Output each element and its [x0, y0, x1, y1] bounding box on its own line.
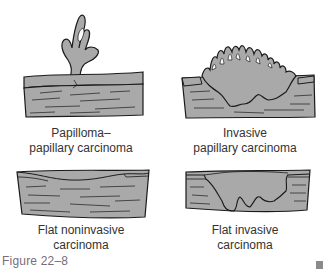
- label-line: Flat invasive: [165, 223, 325, 238]
- label-line: Invasive: [165, 126, 325, 141]
- panel-label-flat-noninvasive: Flat noninvasive carcinoma: [1, 223, 161, 253]
- label-line: Flat noninvasive: [1, 223, 161, 238]
- papilloma-illustration: [0, 0, 164, 125]
- invasive-papillary-illustration: [164, 0, 328, 125]
- label-line: papillary carcinoma: [165, 141, 325, 156]
- label-line: carcinoma: [1, 238, 161, 253]
- label-line: carcinoma: [165, 238, 325, 253]
- label-line: papillary carcinoma: [1, 141, 161, 156]
- label-line: Papilloma–: [1, 126, 161, 141]
- panel-label-papilloma: Papilloma– papillary carcinoma: [1, 126, 161, 156]
- panel-label-flat-invasive: Flat invasive carcinoma: [165, 223, 325, 253]
- end-marker-square-icon: [316, 261, 323, 269]
- panel-label-invasive-papillary: Invasive papillary carcinoma: [165, 126, 325, 156]
- figure-caption: Figure 22–8: [2, 254, 68, 268]
